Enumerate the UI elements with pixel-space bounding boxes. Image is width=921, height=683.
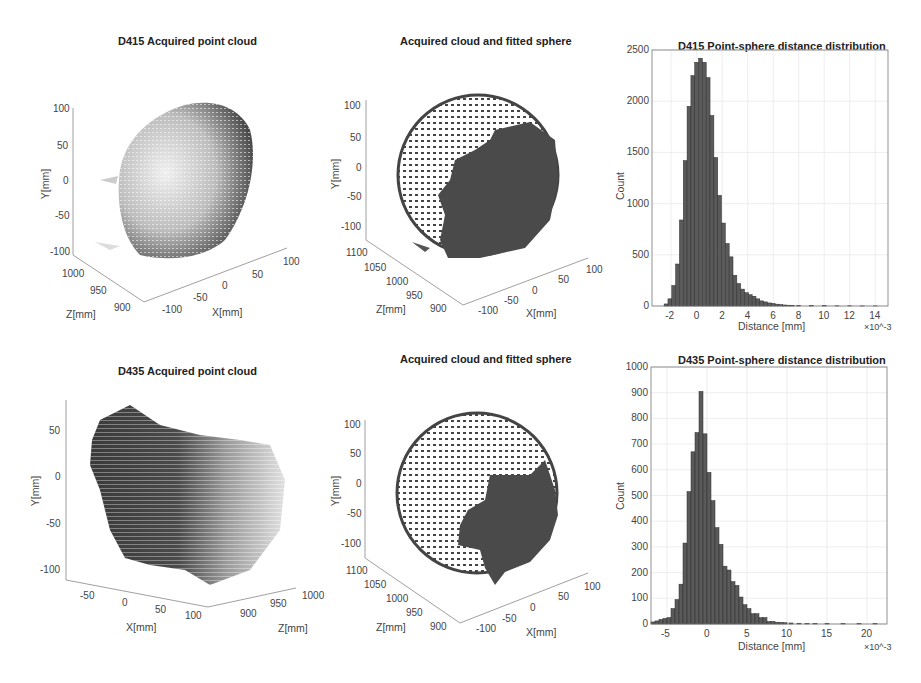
histogram-bar [733, 275, 737, 306]
y-tick: 100 [344, 100, 361, 111]
d415-distance-histogram: D415 Point-sphere distance distribution … [610, 0, 921, 340]
x-tick: 2 [719, 310, 725, 321]
x-tick: 0 [694, 310, 700, 321]
histogram-bar [735, 585, 739, 624]
histogram-bar [760, 301, 764, 306]
y-tick: 0 [643, 300, 649, 311]
z-tick: 1000 [386, 593, 408, 604]
x-multiplier: ×10^-3 [864, 322, 892, 332]
y-tick: -50 [347, 508, 361, 519]
y-tick: 0 [356, 478, 362, 489]
histogram-bar [659, 619, 663, 624]
y-tick: 0 [642, 618, 648, 629]
x-multiplier: ×10^-3 [864, 642, 892, 652]
x-tick: -50 [193, 292, 207, 303]
x-axis-label: X[mm] [526, 626, 556, 638]
y-tick: 0 [55, 471, 61, 482]
histogram-bar [687, 492, 691, 624]
histogram-bar [702, 62, 706, 306]
y-axis-label: Count [614, 482, 626, 510]
z-tick: 1000 [62, 268, 84, 279]
x-tick: 100 [584, 581, 601, 592]
histogram-bar [710, 116, 714, 306]
histogram-bar [691, 76, 695, 306]
x-tick: 14 [869, 310, 880, 321]
y-axis-label: Y[mm] [29, 476, 41, 506]
x-tick: 100 [283, 256, 300, 267]
d435-distance-histogram: D435 Point-sphere distance distribution … [610, 340, 921, 683]
histogram-bar [747, 609, 751, 624]
histogram-bar [699, 391, 703, 624]
z-tick: 1050 [364, 262, 386, 273]
z-tick: 1050 [364, 579, 386, 590]
y-tick: 1500 [627, 146, 649, 157]
x-tick: 0 [122, 597, 128, 608]
x-tick: 0 [532, 285, 538, 296]
x-tick: -50 [504, 295, 518, 306]
z-tick: 950 [406, 607, 423, 618]
x-tick: 8 [796, 310, 802, 321]
y-tick: 400 [631, 515, 648, 526]
d435-fitted-sphere-plot: Acquired cloud and fitted sphere 100 50 … [300, 340, 620, 683]
histogram-bar [755, 614, 759, 624]
x-tick: 20 [861, 628, 872, 639]
histogram-bar [725, 244, 729, 306]
y-tick: 100 [53, 103, 70, 114]
x-tick: 10 [818, 310, 829, 321]
histogram-bar [751, 614, 755, 624]
x-tick: -100 [478, 305, 498, 316]
histogram-bar [711, 501, 715, 624]
x-tick: 4 [745, 310, 751, 321]
z-tick: 900 [240, 608, 257, 619]
histogram-bar [707, 472, 711, 624]
y-axis-label: Y[mm] [329, 159, 341, 189]
histogram-bar [695, 433, 699, 624]
x-tick: -100 [162, 304, 182, 315]
y-tick: -100 [341, 538, 361, 549]
d415-point-cloud-plot: D415 Acquired point cloud 100 50 0 -50 -… [0, 0, 310, 330]
histogram-bar [741, 289, 745, 306]
histogram-bar [671, 609, 675, 624]
histogram-bar [756, 299, 760, 306]
histogram-bar [715, 528, 719, 624]
x-tick: 0 [222, 280, 228, 291]
x-tick: 12 [844, 310, 855, 321]
z-tick: 1100 [346, 565, 368, 576]
z-tick: 950 [406, 290, 423, 301]
histogram-bar [727, 570, 731, 624]
y-tick: -50 [55, 210, 69, 221]
histogram-canvas [610, 340, 921, 683]
3d-axes-and-sphere [300, 0, 620, 330]
z-tick: 900 [114, 302, 131, 313]
histogram-bar [695, 62, 699, 306]
histogram-bar [668, 299, 672, 306]
x-tick: 6 [770, 310, 776, 321]
y-tick: 600 [631, 464, 648, 475]
histogram-bar [752, 296, 756, 306]
d435-point-cloud-plot: D435 Acquired point cloud 50 0 -50 -100 … [0, 340, 310, 683]
x-tick: 10 [781, 628, 792, 639]
histogram-bar [663, 618, 667, 624]
z-tick: 1100 [346, 247, 368, 258]
y-tick: 1000 [627, 198, 649, 209]
histogram-bar [703, 434, 707, 624]
x-tick: 50 [558, 274, 569, 285]
histogram-bar [683, 543, 687, 624]
histogram-bar [767, 303, 771, 306]
y-tick: 50 [350, 448, 361, 459]
x-tick: 50 [558, 591, 569, 602]
histogram-bar [748, 295, 752, 306]
x-axis-label: X[mm] [526, 307, 556, 319]
histogram-bar [718, 195, 722, 306]
histogram-bar [679, 220, 683, 306]
z-axis-label: Z[mm] [66, 308, 96, 320]
histogram-bar [679, 584, 683, 624]
x-tick: 50 [155, 604, 166, 615]
y-tick: 300 [631, 541, 648, 552]
histogram-bar [655, 621, 659, 624]
y-tick: -100 [50, 246, 70, 257]
z-tick: 1000 [386, 276, 408, 287]
d415-fitted-sphere-plot: Acquired cloud and fitted sphere 100 50 … [300, 0, 620, 330]
x-axis-label: Distance [mm] [738, 320, 805, 332]
z-axis-label: Z[mm] [376, 303, 406, 315]
